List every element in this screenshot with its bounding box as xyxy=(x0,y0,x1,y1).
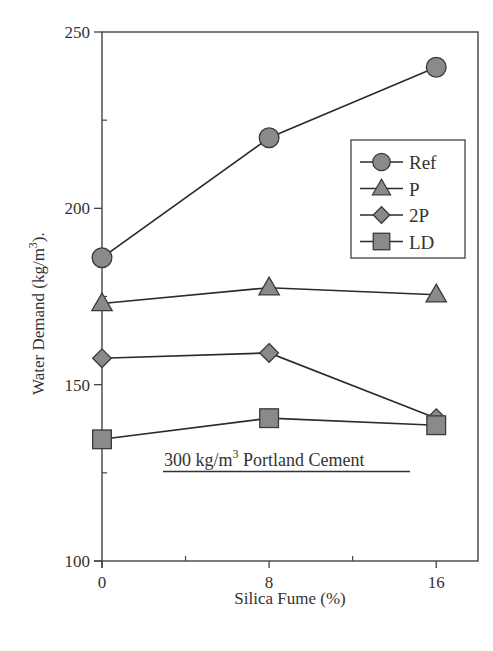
circle-marker xyxy=(426,57,446,77)
annotation-portland-cement: 300 kg/m3 Portland Cement xyxy=(163,447,410,472)
triangle-marker xyxy=(92,293,112,311)
legend-label: LD xyxy=(409,232,434,253)
plot-frame xyxy=(94,32,478,568)
y-axis-title: Water Demand (kg/m3). xyxy=(26,232,48,395)
triangle-marker xyxy=(426,284,446,302)
square-marker xyxy=(427,416,446,435)
series-p xyxy=(92,277,447,311)
square-marker xyxy=(373,233,390,250)
legend-box xyxy=(351,140,465,258)
circle-marker xyxy=(92,248,112,268)
y-tick-label: 200 xyxy=(65,199,91,218)
legend-label: Ref xyxy=(409,152,437,173)
x-tick-label: 16 xyxy=(428,573,445,592)
legend: RefP2PLD xyxy=(351,140,465,258)
annotation-text: 300 kg/m3 Portland Cement xyxy=(164,447,365,470)
water-demand-chart: 100150200250 0816 Water Demand (kg/m3). … xyxy=(0,0,493,651)
triangle-marker xyxy=(259,277,279,295)
plot-border xyxy=(102,32,478,561)
diamond-marker xyxy=(93,349,112,368)
x-tick-label: 0 xyxy=(98,573,107,592)
y-tick-label: 250 xyxy=(65,23,91,42)
circle-marker xyxy=(373,153,390,170)
y-tick-label: 100 xyxy=(65,552,91,571)
legend-label: P xyxy=(409,179,420,200)
square-marker xyxy=(260,409,279,428)
series-ld xyxy=(93,409,446,449)
square-marker xyxy=(93,430,112,449)
y-tick-label: 150 xyxy=(65,376,91,395)
x-axis-title: Silica Fume (%) xyxy=(234,589,345,608)
circle-marker xyxy=(259,128,279,148)
legend-label: 2P xyxy=(409,205,429,226)
diamond-marker xyxy=(260,344,279,363)
